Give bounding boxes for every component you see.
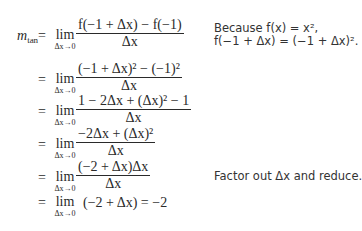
step-5-fraction: (−2 + Δx)ΔxΔx [76,159,150,192]
step-2-fraction: (−1 + Δx)² − (−1)²Δx [76,61,182,94]
annotation-factor-out: Factor out Δx and reduce. [214,170,362,183]
step-1-fraction: f(−1 + Δx) − f(−1)Δx [76,17,184,50]
step-6-result: (−2 + Δx) = −2 [83,195,167,211]
annotation-because: Because f(x) = x², f(−1 + Δx) = (−1 + Δx… [214,22,358,48]
slope-symbol: mtan [17,28,38,45]
step-4-fraction: −2Δx + (Δx)²Δx [76,126,155,159]
limit-operator: limΔx→0 [45,195,85,218]
annotation-line-2: f(−1 + Δx) = (−1 + Δx)². [214,35,358,48]
step-3-fraction: 1 − 2Δx + (Δx)² − 1Δx [76,93,191,126]
